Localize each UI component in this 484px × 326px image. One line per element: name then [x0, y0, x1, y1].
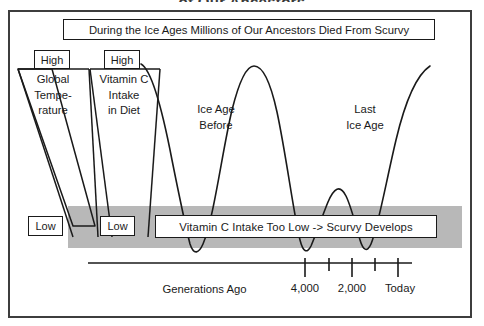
vitamin-c-low-label-box: Low — [100, 216, 135, 236]
cut-off-page-heading: of Our Ancestors — [0, 0, 484, 2]
timeline-tick-label-4000: 4,000 — [285, 282, 325, 294]
timeline-tick-label-2000: 2,000 — [332, 282, 372, 294]
annotation-ice-age-before: Ice Age Before — [181, 102, 251, 133]
high-label-text: High — [41, 54, 64, 66]
scurvy-threshold-text: Vitamin C Intake Too Low -> Scurvy Devel… — [179, 221, 412, 233]
vitamin-c-axis-label: Vitamin C Intake in Diet — [94, 72, 154, 119]
timeline-caption: Generations Ago — [147, 282, 262, 298]
high-label-text: High — [111, 54, 134, 66]
vitamin-c-high-label-box: High — [104, 50, 140, 69]
low-label-text: Low — [35, 220, 55, 232]
diagram-canvas: of Our Ancestors During the Ice Ages Mil… — [0, 0, 484, 326]
global-temperature-axis-label: Global Tempe- rature — [24, 72, 82, 119]
diagram-title-box: During the Ice Ages Millions of Our Ance… — [63, 19, 435, 40]
low-label-text: Low — [107, 220, 127, 232]
annotation-last-ice-age: Last Ice Age — [333, 102, 397, 133]
timeline-tick-label-today: Today — [379, 282, 421, 294]
global-temperature-high-label-box: High — [34, 50, 70, 69]
global-temperature-low-label-box: Low — [28, 216, 63, 236]
diagram-title-text: During the Ice Ages Millions of Our Ance… — [89, 24, 409, 36]
diagram-outer-frame — [8, 10, 472, 318]
scurvy-threshold-callout-box: Vitamin C Intake Too Low -> Scurvy Devel… — [155, 215, 437, 238]
